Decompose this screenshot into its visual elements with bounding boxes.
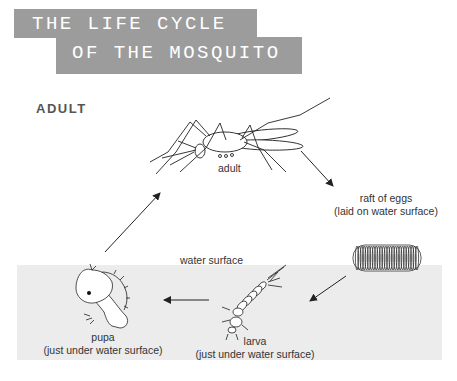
eggs-note: (laid on water surface): [331, 205, 441, 218]
arrow-eggs-to-larva: [310, 276, 346, 301]
eggs-label: raft of eggs: [331, 192, 441, 205]
pupa-label: pupa: [38, 331, 168, 344]
egg-raft-icon: [353, 245, 421, 271]
larva-label: larva: [190, 335, 320, 348]
pupa-label-group: pupa (just under water surface): [38, 331, 168, 357]
eggs-label-group: raft of eggs (laid on water surface): [331, 192, 441, 218]
pupa-icon: [76, 264, 130, 328]
water-surface-label: water surface: [180, 254, 243, 267]
arrow-adult-to-eggs: [301, 151, 333, 186]
larva-note: (just under water surface): [190, 348, 320, 361]
life-cycle-drawing: adult: [0, 0, 457, 381]
larva-label-group: larva (just under water surface): [190, 335, 320, 361]
larva-icon: [222, 265, 286, 340]
adult-label: adult: [218, 162, 241, 174]
pupa-note: (just under water surface): [38, 344, 168, 357]
arrow-pupa-to-adult: [105, 193, 160, 252]
